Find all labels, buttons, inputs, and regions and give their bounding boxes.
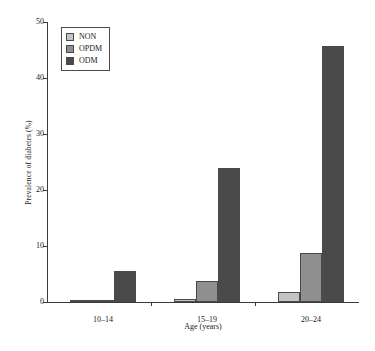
y-tick-label: 20 (36, 184, 44, 195)
y-axis-line (47, 22, 48, 302)
legend-swatch-non-icon (66, 33, 74, 41)
legend-label: NON (79, 31, 96, 43)
x-tick-mark (151, 302, 152, 306)
bar-group-20-24 (278, 22, 344, 302)
bar-odm-20-24 (322, 46, 344, 302)
legend-item-opdm: OPDM (66, 43, 102, 55)
x-tick-mark (255, 302, 256, 306)
legend-swatch-opdm-icon (66, 45, 74, 53)
legend-item-non: NON (66, 31, 102, 43)
y-tick-label: 0 (40, 296, 44, 307)
bar-non-20-24 (278, 292, 300, 302)
legend-item-odm: ODM (66, 55, 102, 67)
x-axis-line (47, 302, 359, 303)
legend: NONOPDMODM (61, 27, 110, 71)
y-tick-label: 10 (36, 240, 44, 251)
y-tick-label: 50 (36, 16, 44, 27)
x-axis-title: Age (years) (47, 322, 359, 331)
bar-odm-15-19 (218, 168, 240, 302)
bar-chart: Prevalence of diabetes (%) 01020304050 1… (0, 0, 375, 351)
bar-odm-10-14 (114, 271, 136, 302)
legend-swatch-odm-icon (66, 57, 74, 65)
bar-non-15-19 (174, 299, 196, 302)
bar-opdm-20-24 (300, 253, 322, 302)
legend-label: ODM (79, 55, 98, 67)
legend-label: OPDM (79, 43, 102, 55)
bar-group-15-19 (174, 22, 240, 302)
bar-opdm-10-14 (92, 300, 114, 302)
y-axis-title: Prevalence of diabetes (%) (24, 83, 33, 243)
bar-non-10-14 (70, 300, 92, 302)
bar-opdm-15-19 (196, 281, 218, 302)
y-tick-label: 40 (36, 72, 44, 83)
y-tick-label: 30 (36, 128, 44, 139)
